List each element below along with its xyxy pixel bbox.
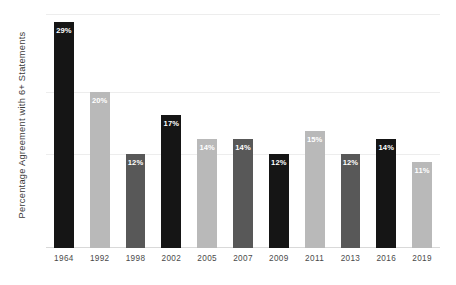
bar[interactable]: 15% [305, 131, 325, 248]
x-tick-label: 2005 [189, 254, 225, 264]
bar[interactable]: 14% [376, 139, 396, 248]
bar[interactable]: 11% [412, 162, 432, 248]
x-tick-label: 2007 [225, 254, 261, 264]
bar-slot: 20% [90, 14, 110, 248]
bar-value-label: 14% [233, 144, 253, 152]
x-tick-label: 2019 [404, 254, 440, 264]
y-axis-title: Percentage Agreement with 6+ Statements [0, 0, 44, 250]
bar-value-label: 29% [54, 27, 74, 35]
x-tick-label: 1992 [82, 254, 118, 264]
bar-value-label: 12% [126, 159, 146, 167]
bar-value-label: 12% [341, 159, 361, 167]
bar[interactable]: 14% [197, 139, 217, 248]
bar[interactable]: 12% [269, 154, 289, 248]
x-axis-tick-labels: 1964199219982002200520072009201120132016… [46, 254, 440, 270]
bar-value-label: 14% [197, 144, 217, 152]
bar[interactable]: 12% [341, 154, 361, 248]
bar[interactable]: 20% [90, 92, 110, 248]
bar-chart: Percentage Agreement with 6+ Statements … [0, 0, 456, 285]
bar-slot: 14% [376, 14, 396, 248]
bar-slot: 17% [161, 14, 181, 248]
bar[interactable]: 14% [233, 139, 253, 248]
bar-value-label: 11% [412, 167, 432, 175]
x-tick-label: 2013 [333, 254, 369, 264]
bars-layer: 29%20%12%17%14%14%12%15%12%14%11% [46, 14, 440, 248]
x-tick-label: 2011 [297, 254, 333, 264]
bar-slot: 12% [126, 14, 146, 248]
x-tick-label: 1998 [118, 254, 154, 264]
x-tick-label: 2009 [261, 254, 297, 264]
bar-slot: 29% [54, 14, 74, 248]
x-tick-label: 2002 [153, 254, 189, 264]
bar[interactable]: 17% [161, 115, 181, 248]
bar-value-label: 20% [90, 97, 110, 105]
bar[interactable]: 12% [126, 154, 146, 248]
x-tick-label: 2016 [368, 254, 404, 264]
bar[interactable]: 29% [54, 22, 74, 248]
bar-slot: 14% [197, 14, 217, 248]
y-axis-title-label: Percentage Agreement with 6+ Statements [17, 32, 27, 219]
x-tick-label: 1964 [46, 254, 82, 264]
bar-slot: 12% [269, 14, 289, 248]
bar-value-label: 17% [161, 120, 181, 128]
bar-slot: 12% [341, 14, 361, 248]
bar-value-label: 14% [376, 144, 396, 152]
bar-value-label: 15% [305, 136, 325, 144]
bar-slot: 11% [412, 14, 432, 248]
bar-slot: 15% [305, 14, 325, 248]
bar-slot: 14% [233, 14, 253, 248]
bar-value-label: 12% [269, 159, 289, 167]
